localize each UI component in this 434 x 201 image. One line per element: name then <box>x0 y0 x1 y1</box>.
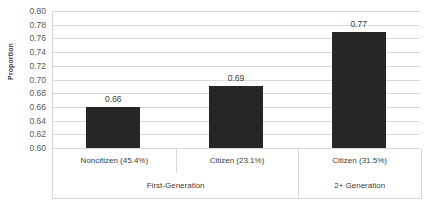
y-axis-tick-label: 0.78 <box>0 20 46 29</box>
group-separator <box>298 148 299 198</box>
bar-value-label: 0.77 <box>329 20 389 29</box>
y-axis-tick-label: 0.62 <box>0 130 46 139</box>
y-axis-tick-label: 0.74 <box>0 48 46 57</box>
bar <box>332 32 386 148</box>
y-axis-tick-label: 0.60 <box>0 144 46 153</box>
bar-series: 0.660.690.77 <box>52 11 420 148</box>
category-label: Citizen (31.5%) <box>298 148 421 173</box>
category-label: Citizen (23.1%) <box>176 148 299 173</box>
bar <box>209 86 263 148</box>
group-tier-labels: First-Generation2+ Generation <box>53 173 421 198</box>
y-axis-tick-label: 0.66 <box>0 103 46 112</box>
group-label: 2+ Generation <box>298 173 421 198</box>
bar-value-label: 0.69 <box>206 74 266 83</box>
category-axis: Noncitizen (45.4%)Citizen (23.1%)Citizen… <box>52 148 422 199</box>
bar <box>86 107 140 148</box>
group-label: First-Generation <box>53 173 298 198</box>
category-separator <box>176 148 177 173</box>
y-axis-tick-label: 0.80 <box>0 7 46 16</box>
y-axis-tick-labels: 0.800.780.760.740.720.700.680.660.640.62… <box>0 0 46 201</box>
plot-area: 0.660.690.77 <box>52 11 420 148</box>
category-label: Noncitizen (45.4%) <box>53 148 176 173</box>
y-axis-tick-label: 0.64 <box>0 116 46 125</box>
category-tier-labels: Noncitizen (45.4%)Citizen (23.1%)Citizen… <box>53 148 421 173</box>
y-axis-tick-label: 0.76 <box>0 34 46 43</box>
y-axis-tick-label: 0.72 <box>0 62 46 71</box>
y-axis-tick-label: 0.68 <box>0 89 46 98</box>
bar-value-label: 0.66 <box>83 95 143 104</box>
bar-chart: Proportion 0.800.780.760.740.720.700.680… <box>0 0 434 201</box>
y-axis-tick-label: 0.70 <box>0 75 46 84</box>
